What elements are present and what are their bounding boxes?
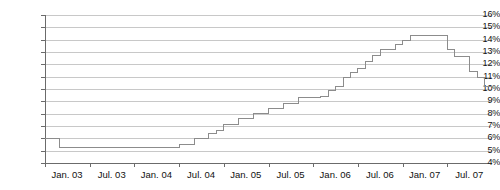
series-step-line [0,0,500,190]
chart-container: 16%15%14%13%12%11%10%9%8%7%6%5%4% Jan. 0… [0,0,500,190]
series-path [45,36,492,148]
